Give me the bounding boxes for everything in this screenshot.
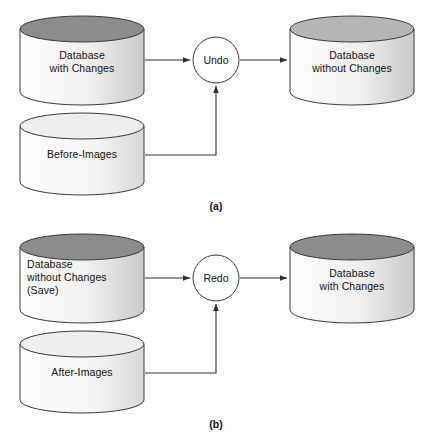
panel-b: Database without Changes (Save) After-Im… (0, 222, 431, 445)
edge-beforeimages-to-undo (145, 86, 216, 155)
panel-a-graphics (0, 0, 431, 222)
cylinder-after-images (20, 331, 144, 413)
cylinder-before-images (20, 113, 144, 195)
edge-afterimages-to-redo (145, 304, 216, 373)
label-undo: Undo (193, 54, 239, 66)
panel-b-graphics (0, 222, 431, 445)
panel-a: Database with Changes Before-Images Data… (0, 0, 431, 222)
cylinder-db-without-changes (290, 16, 414, 105)
cylinder-db-with-changes (20, 16, 144, 105)
caption-panel-b: (b) (196, 418, 236, 430)
caption-panel-a: (a) (196, 200, 236, 212)
label-redo: Redo (193, 272, 239, 284)
recovery-diagram: Database with Changes Before-Images Data… (0, 0, 431, 445)
cylinder-db-with-changes-2 (290, 234, 414, 323)
cylinder-db-without-changes-save (20, 234, 144, 323)
